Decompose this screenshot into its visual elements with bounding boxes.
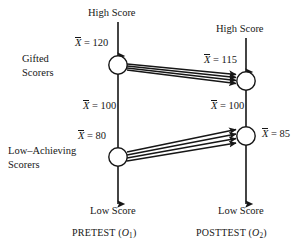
mean-symbol: X	[83, 101, 89, 112]
posttest-axis-title-text: POSTTEST (	[196, 227, 252, 238]
gifted-posttest-mean-label: X = 115	[204, 55, 237, 66]
group-label-gifted-line1: Gifted	[22, 54, 54, 65]
gifted-posttest-mean-value: = 115	[213, 54, 237, 65]
mean-symbol: X	[75, 38, 81, 49]
node-gifted-posttest	[237, 72, 255, 90]
low-achieving-regression-arrows	[127, 130, 236, 162]
regression-to-mean-figure: High Score High Score Low Score Low Scor…	[0, 0, 308, 243]
group-label-low-achieving-line1: Low–Achieving	[8, 146, 76, 157]
group-label-low-achieving-line2: Scorers	[8, 160, 76, 171]
pretest-axis-title-text: PRETEST (	[72, 227, 122, 238]
node-low-achieving-posttest	[237, 127, 255, 145]
pretest-grand-mean-label: X = 100	[83, 101, 116, 112]
mean-symbol: X	[204, 55, 210, 66]
pretest-axis-title: PRETEST (O1)	[72, 228, 136, 240]
pretest-grand-mean-value: = 100	[92, 100, 116, 111]
group-label-gifted: Gifted Scorers	[22, 54, 54, 78]
posttest-paren-close: )	[263, 227, 267, 238]
low-achieving-posttest-mean-value: = 85	[271, 128, 290, 139]
pretest-low-score-label: Low Score	[90, 206, 136, 217]
group-label-gifted-line2: Scorers	[22, 68, 54, 79]
gifted-pretest-mean-label: X = 120	[75, 38, 108, 49]
mean-symbol: X	[78, 131, 84, 142]
posttest-axis-title: POSTTEST (O2)	[196, 228, 267, 240]
posttest-low-score-label: Low Score	[218, 206, 264, 217]
group-label-low-achieving: Low–Achieving Scorers	[8, 146, 76, 170]
posttest-high-score-label: High Score	[216, 24, 264, 35]
low-achieving-pretest-mean-label: X = 80	[78, 131, 106, 142]
pretest-observation-symbol: O	[122, 227, 129, 238]
node-gifted-pretest	[109, 56, 127, 74]
posttest-grand-mean-label: X = 100	[211, 101, 244, 112]
pretest-paren-close: )	[133, 227, 137, 238]
gifted-regression-arrows	[127, 64, 236, 84]
node-low-achieving-pretest	[109, 148, 127, 166]
mean-symbol: X	[211, 101, 217, 112]
pretest-high-score-label: High Score	[88, 8, 136, 19]
posttest-grand-mean-value: = 100	[220, 100, 244, 111]
low-achieving-pretest-mean-value: = 80	[87, 130, 106, 141]
mean-symbol: X	[262, 129, 268, 140]
low-achieving-posttest-mean-label: X = 85	[262, 129, 290, 140]
gifted-pretest-mean-value: = 120	[84, 37, 108, 48]
